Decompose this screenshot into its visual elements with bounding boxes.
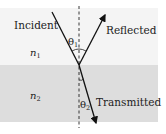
transmitted-label: Transmitted <box>96 96 161 108</box>
incident-label: Incident <box>14 19 59 31</box>
refraction-diagram: Incident Reflected Transmitted n1 n2 θ1 … <box>0 0 166 134</box>
reflected-label: Reflected <box>106 24 157 36</box>
